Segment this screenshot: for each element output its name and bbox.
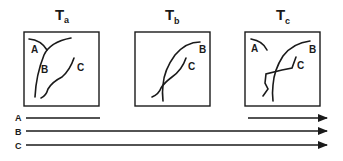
label-c: C: [77, 62, 84, 73]
timeline-label-a: A: [15, 113, 22, 123]
label-c: C: [188, 61, 195, 72]
panel-ta: T a A B C: [24, 6, 99, 106]
label-b: B: [199, 44, 206, 55]
label-a: A: [31, 44, 38, 55]
panel-subscript: c: [285, 16, 290, 26]
panel-subscript: b: [174, 16, 180, 26]
timeline-label-c: C: [15, 141, 22, 151]
panel-title: T: [165, 6, 174, 23]
label-a: A: [251, 43, 258, 54]
diagram-canvas: T a A B C T b B C T c A B C A B C: [0, 0, 343, 161]
label-c: C: [297, 60, 304, 71]
panel-title: T: [55, 6, 64, 23]
panel-tc: T c A B C: [245, 6, 320, 106]
panel-title: T: [276, 6, 285, 23]
label-b: B: [309, 44, 316, 55]
panel-subscript: a: [64, 15, 70, 25]
label-b: B: [41, 64, 48, 75]
timeline-label-b: B: [15, 127, 22, 137]
timeline: A B C: [15, 113, 327, 151]
panel-tb: T b B C: [135, 6, 210, 106]
